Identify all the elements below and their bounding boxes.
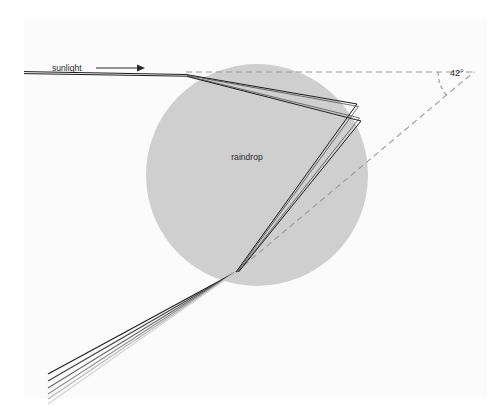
rainbow-optics-figure: sunlight raindrop 42° (0, 0, 498, 405)
sunlight-label: sunlight (52, 63, 82, 73)
angle-label: 42° (450, 68, 464, 78)
raindrop-label: raindrop (231, 152, 263, 162)
raindrop-circle (146, 64, 368, 286)
figure-canvas: sunlight raindrop 42° (0, 0, 498, 405)
